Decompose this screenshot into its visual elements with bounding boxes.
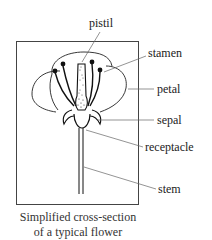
sepals [63,110,100,128]
label-pistil: pistil [89,17,113,29]
pistil [76,64,88,110]
label-receptacle: receptacle [145,141,194,153]
label-sepal: sepal [157,114,182,126]
label-stamen: stamen [148,47,182,59]
label-petal: petal [157,83,180,95]
label-stem: stem [158,183,181,195]
caption-line-1: Simplified cross-section [0,210,156,224]
stem [79,128,83,194]
caption-line-2: of a typical flower [0,225,156,239]
